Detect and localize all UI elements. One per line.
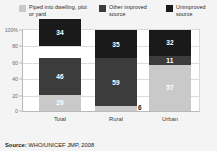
y-tickmark-80 (19, 46, 22, 47)
legend-item-piped[interactable]: Piped into dwelling, plot or yard (19, 4, 93, 17)
y-tickmark-40 (19, 79, 22, 80)
bar-segment-total-unimproved[interactable]: 34 (39, 19, 81, 47)
bar-group-rural[interactable]: 35 59 6 (95, 30, 137, 111)
y-axis: 100% 80 60 40 20 0 (0, 29, 22, 112)
y-tick-label-80: 80 (12, 43, 18, 49)
legend-item-other-improved[interactable]: Other improved source (99, 4, 163, 17)
y-tick-label-20: 20 (12, 93, 18, 99)
x-tick-label-total: Total (54, 116, 66, 122)
y-tickmark-20 (19, 95, 22, 96)
source-note: Source: WHO/UNICEF JMP, 2008 (5, 142, 94, 148)
y-tickmark-0 (19, 111, 22, 112)
x-tick-label-urban: Urban (162, 116, 178, 122)
bar-segment-urban-piped[interactable]: 57 (149, 65, 191, 111)
legend-swatch-other-improved-icon (99, 5, 106, 12)
bar-segment-urban-unimproved[interactable]: 32 (149, 30, 191, 56)
bar-value-rural-piped: 6 (138, 104, 142, 111)
y-tickmark-100 (19, 30, 22, 31)
x-axis: Total Rural Urban (22, 114, 200, 126)
bar-group-total[interactable]: 34 46 20 (39, 30, 81, 111)
bar-segment-total-piped[interactable]: 20 (39, 95, 81, 111)
bar-value-rural-other-improved: 59 (112, 79, 120, 86)
bar-segment-rural-piped[interactable] (95, 106, 137, 111)
y-tick-label-0: 0 (15, 108, 18, 114)
legend-label-unimproved: Unimproved source (176, 4, 214, 17)
bar-value-total-piped: 20 (56, 99, 64, 106)
bar-value-urban-other-improved: 11 (166, 57, 173, 64)
bar-value-urban-piped: 57 (166, 84, 174, 91)
bar-value-rural-unimproved: 35 (112, 41, 120, 48)
source-text: WHO/UNICEF JMP, 2008 (28, 142, 94, 148)
bar-group-urban[interactable]: 32 11 57 (149, 30, 191, 111)
x-tick-label-rural: Rural (109, 116, 123, 122)
y-tick-label-40: 40 (12, 76, 18, 82)
chart-figure: Piped into dwelling, plot or yard Other … (0, 0, 217, 151)
legend-item-unimproved[interactable]: Unimproved source (166, 4, 214, 17)
bar-segment-rural-other-improved[interactable]: 59 (95, 58, 137, 106)
chart-legend: Piped into dwelling, plot or yard Other … (0, 0, 217, 22)
source-label: Source: (5, 142, 27, 148)
bar-value-total-unimproved: 34 (56, 29, 64, 36)
y-tick-label-60: 60 (12, 60, 18, 66)
bar-segment-rural-unimproved[interactable]: 35 (95, 30, 137, 58)
bar-series-container: 34 46 20 35 59 6 32 11 (23, 30, 199, 111)
legend-label-other-improved: Other improved source (109, 4, 163, 17)
y-tick-label-100: 100% (5, 27, 18, 33)
bar-value-urban-unimproved: 32 (166, 39, 174, 46)
legend-label-piped: Piped into dwelling, plot or yard (29, 4, 93, 17)
legend-swatch-unimproved-icon (166, 5, 173, 12)
bar-segment-urban-other-improved[interactable]: 11 (149, 56, 191, 65)
bar-segment-total-other-improved[interactable]: 46 (39, 58, 81, 95)
y-tickmark-60 (19, 62, 22, 63)
legend-swatch-piped-icon (19, 5, 26, 12)
bar-value-total-other-improved: 46 (56, 73, 64, 80)
